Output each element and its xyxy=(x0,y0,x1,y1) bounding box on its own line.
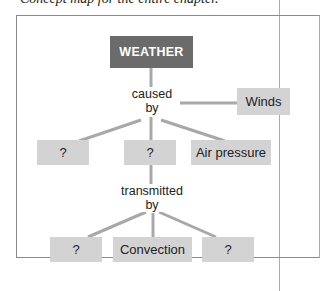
node-air-pressure: Air pressure xyxy=(191,140,271,165)
node-cause-unknown-1: ? xyxy=(37,140,89,165)
link-label-caused-by: caused by xyxy=(124,87,180,115)
node-transmission-unknown-1: ? xyxy=(50,237,102,262)
node-winds: Winds xyxy=(237,88,290,115)
link-label-line1: transmitted xyxy=(112,184,192,198)
node-cause-unknown-2: ? xyxy=(124,140,176,165)
link-label-line2: by xyxy=(124,101,180,115)
link-label-transmitted-by: transmitted by xyxy=(112,184,192,212)
link-label-line1: caused xyxy=(124,87,180,101)
link-label-line2: by xyxy=(112,198,192,212)
node-transmission-unknown-3: ? xyxy=(202,237,254,262)
node-weather: WEATHER xyxy=(110,36,193,68)
node-convection: Convection xyxy=(113,237,192,262)
